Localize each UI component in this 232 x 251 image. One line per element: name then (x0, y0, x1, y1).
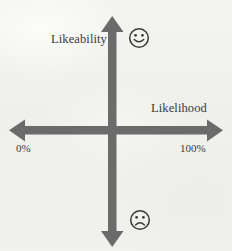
x-axis-max-tick-label: 100% (180, 143, 206, 154)
sad-face-icon (129, 209, 151, 231)
diagram-canvas: Likeability Likelihood 0% 100% (0, 0, 232, 251)
happy-face-icon (128, 27, 150, 49)
horizontal-axis-label: Likelihood (151, 102, 207, 115)
vertical-axis-label: Likeability (51, 33, 107, 46)
x-axis-min-tick-label: 0% (16, 143, 31, 154)
axes-graphic (0, 0, 232, 251)
